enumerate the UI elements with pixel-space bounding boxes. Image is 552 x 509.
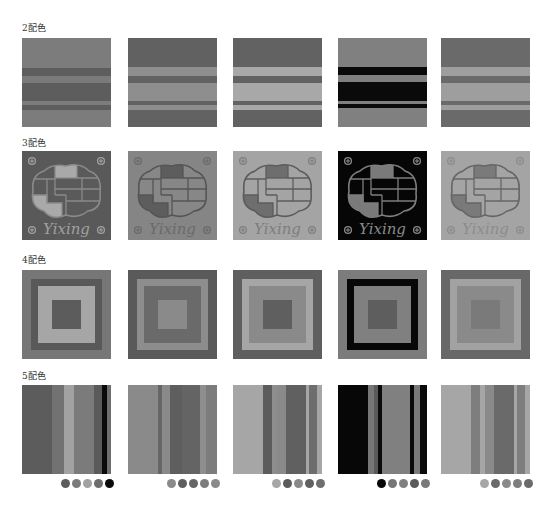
color-stripe	[74, 385, 94, 474]
five-color-swatch	[22, 385, 111, 474]
palette-dot	[211, 479, 220, 488]
plus-circle-icon	[204, 227, 211, 234]
palette-dot	[178, 479, 187, 488]
color-stripe	[22, 385, 52, 474]
brand-wordmark: Yixing	[254, 220, 301, 238]
color-stripe	[420, 385, 427, 474]
color-stripe	[338, 385, 368, 474]
plus-circle-icon	[135, 158, 142, 165]
nested-square	[52, 300, 81, 329]
nested-square	[368, 300, 397, 329]
color-stripe	[206, 385, 217, 474]
brand-wordmark: Yixing	[359, 220, 406, 238]
color-band	[233, 76, 322, 83]
color-stripe	[263, 385, 272, 474]
plus-circle-icon	[448, 227, 455, 234]
plus-circle-icon	[414, 158, 421, 165]
plus-circle-icon	[309, 158, 316, 165]
palette-dot	[491, 479, 500, 488]
four-color-swatch	[22, 270, 111, 359]
section-label-4-colors: 4配色	[22, 255, 46, 265]
palette-dot	[377, 479, 386, 488]
color-band	[233, 38, 322, 67]
four-color-swatch	[128, 270, 217, 359]
palette-dot	[167, 479, 176, 488]
palette-dot	[410, 479, 419, 488]
palette-dot	[272, 479, 281, 488]
palette-dots	[480, 479, 533, 488]
color-band	[22, 38, 111, 68]
palette-dot	[305, 479, 314, 488]
brand-wordmark: Yixing	[149, 220, 196, 238]
color-band	[22, 83, 111, 101]
color-band	[128, 110, 217, 127]
five-color-swatch	[441, 385, 530, 474]
palette-dot	[480, 479, 489, 488]
color-band	[338, 82, 427, 101]
section-label-5-colors: 5配色	[22, 371, 46, 381]
color-stripe	[52, 385, 64, 474]
color-stripe	[94, 385, 102, 474]
yixing-logo-swatch: Yixing	[441, 151, 530, 240]
color-band	[22, 68, 111, 76]
plus-circle-icon	[414, 227, 421, 234]
two-color-swatch	[338, 38, 427, 127]
color-stripe	[128, 385, 158, 474]
plus-circle-icon	[345, 227, 352, 234]
color-band	[441, 110, 530, 127]
palette-dot	[200, 479, 209, 488]
color-band	[128, 76, 217, 83]
nested-square	[158, 300, 187, 329]
two-color-swatch	[128, 38, 217, 127]
four-color-swatch	[441, 270, 530, 359]
two-color-swatch	[233, 38, 322, 127]
five-color-swatch	[338, 385, 427, 474]
color-band	[338, 67, 427, 75]
color-band	[22, 76, 111, 83]
color-band	[441, 76, 530, 83]
color-stripe	[441, 385, 471, 474]
five-color-swatch	[128, 385, 217, 474]
plus-circle-icon	[98, 158, 105, 165]
five-color-swatch	[233, 385, 322, 474]
nested-square	[263, 300, 292, 329]
section-label-3-colors: 3配色	[22, 138, 46, 148]
color-band	[338, 75, 427, 82]
color-band	[441, 83, 530, 101]
color-stripe	[494, 385, 514, 474]
color-stripe	[317, 385, 322, 474]
palette-dot	[388, 479, 397, 488]
palette-dot	[94, 479, 103, 488]
color-stripe	[517, 385, 525, 474]
color-stripe	[382, 385, 410, 474]
color-band	[233, 110, 322, 127]
color-band	[338, 108, 427, 127]
palette-dot	[294, 479, 303, 488]
palette-dot	[83, 479, 92, 488]
color-stripe	[107, 385, 111, 474]
color-stripe	[471, 385, 480, 474]
palette-dot	[189, 479, 198, 488]
color-band	[22, 110, 111, 127]
four-color-swatch	[233, 270, 322, 359]
plus-circle-icon	[29, 227, 36, 234]
color-stripe	[162, 385, 170, 474]
plus-circle-icon	[240, 158, 247, 165]
palette-dot	[513, 479, 522, 488]
palette-dot	[105, 479, 114, 488]
plus-circle-icon	[98, 227, 105, 234]
palette-dot	[524, 479, 533, 488]
yixing-logo-swatch: Yixing	[338, 151, 427, 240]
palette-dot	[283, 479, 292, 488]
color-band	[128, 83, 217, 101]
palette-dot	[72, 479, 81, 488]
color-band	[441, 38, 530, 67]
color-band	[233, 67, 322, 76]
plus-circle-icon	[345, 158, 352, 165]
palette-dot	[316, 479, 325, 488]
color-band	[338, 38, 427, 67]
plus-circle-icon	[204, 158, 211, 165]
brand-wordmark: Yixing	[43, 220, 90, 238]
section-label-2-colors: 2配色	[22, 23, 46, 33]
plus-circle-icon	[517, 227, 524, 234]
